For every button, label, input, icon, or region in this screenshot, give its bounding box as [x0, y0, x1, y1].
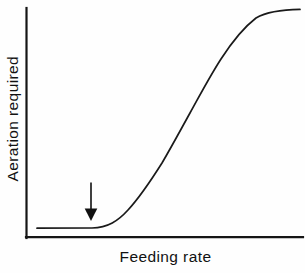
chart-plot-area: [0, 0, 305, 273]
chart-figure: Aeration required Feeding rate: [0, 0, 305, 273]
annotation-arrow-head-icon: [85, 209, 98, 222]
y-axis-title-container: Aeration required: [0, 0, 26, 238]
y-axis-title: Aeration required: [5, 56, 21, 182]
x-axis-title: Feeding rate: [0, 249, 305, 265]
aeration-sigmoid-curve: [37, 9, 300, 228]
